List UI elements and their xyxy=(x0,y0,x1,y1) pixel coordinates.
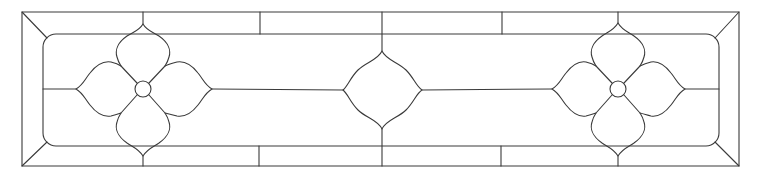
petal-bottom xyxy=(116,95,169,156)
flower-center xyxy=(135,81,151,97)
pattern-drawing xyxy=(0,0,777,177)
corner-miters xyxy=(22,12,739,166)
stained-glass-pattern xyxy=(0,0,777,177)
inner-panel xyxy=(43,34,719,146)
petal-left xyxy=(552,62,596,116)
petal-left xyxy=(76,62,121,116)
center-leads xyxy=(43,12,719,166)
left-flower xyxy=(76,12,212,166)
outer-frame xyxy=(22,12,739,166)
petal-top xyxy=(591,23,644,83)
petal-right xyxy=(165,62,212,116)
petal-right xyxy=(640,62,685,116)
border-dividers xyxy=(259,12,502,166)
center-medallion xyxy=(343,51,422,129)
right-flower xyxy=(552,12,685,166)
petal-top xyxy=(116,24,169,83)
petal-bottom xyxy=(591,95,644,156)
flower-center xyxy=(610,81,626,97)
